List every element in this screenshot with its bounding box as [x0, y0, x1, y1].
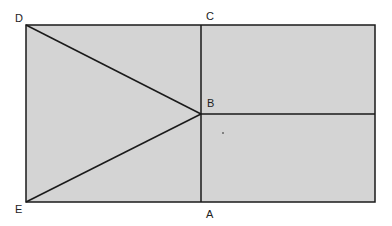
speck-mark	[222, 132, 224, 134]
label-A: A	[206, 208, 214, 220]
label-B: B	[207, 97, 214, 109]
label-D: D	[15, 12, 23, 24]
geometry-diagram: D C B A E	[0, 0, 392, 226]
label-C: C	[206, 10, 214, 22]
label-E: E	[15, 203, 22, 215]
